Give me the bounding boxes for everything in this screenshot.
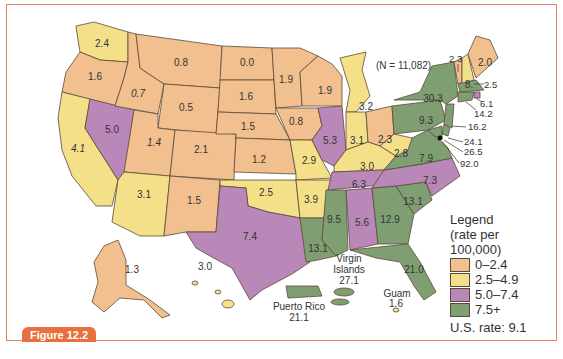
figure-tab: Figure 12.2	[22, 327, 96, 342]
state-AK	[92, 240, 170, 318]
label-IA: 0.8	[289, 116, 303, 127]
label-KS: 1.2	[252, 154, 266, 165]
label-CA: 4.1	[71, 143, 85, 154]
label-MT: 0.8	[174, 57, 188, 68]
label-VI-name2: Islands	[333, 264, 365, 275]
state-NJ	[444, 104, 454, 128]
label-GU: 1.6	[389, 298, 403, 309]
label-CO: 2.1	[194, 144, 208, 155]
label-HI: 3.0	[198, 261, 212, 272]
state-CO	[170, 130, 236, 180]
label-SD: 1.6	[239, 91, 253, 102]
n-count-label: (N = 11,082)	[376, 60, 431, 71]
label-GA: 12.9	[380, 214, 400, 225]
legend-label: 5.0–7.4	[475, 287, 518, 302]
label-FL: 21.0	[404, 264, 424, 275]
label-IN: 3.1	[350, 135, 364, 146]
state-AZ	[112, 172, 170, 236]
label-ID: 0.7	[131, 88, 145, 99]
label-NH: 2.5	[484, 79, 497, 90]
label-MO: 2.9	[302, 155, 316, 166]
legend-item: 5.0–7.4	[450, 287, 527, 302]
label-NV: 5.0	[105, 124, 119, 135]
label-AK: 1.3	[125, 264, 139, 275]
label-AR: 3.9	[304, 194, 318, 205]
label-VI: 27.1	[339, 275, 359, 286]
label-DC: 92.0	[460, 158, 479, 169]
label-AL: 5.6	[355, 217, 369, 228]
label-WI: 1.9	[318, 85, 332, 96]
label-IL: 5.3	[323, 135, 337, 146]
label-MD: 26.5	[464, 146, 483, 157]
hi-island	[215, 290, 221, 294]
label-MI: 3.2	[359, 101, 373, 112]
label-OR: 1.6	[88, 71, 102, 82]
state-NM	[164, 176, 220, 236]
label-VI-name1: Virgin	[336, 253, 361, 264]
label-SC: 13.1	[403, 196, 423, 207]
leader-DE	[448, 138, 463, 142]
legend: Legend (rate per 100,000) 0–2.4 2.5–4.9 …	[450, 212, 527, 335]
label-MN: 1.9	[279, 74, 293, 85]
label-LA: 13.1	[308, 243, 328, 254]
legend-subtitle-1: (rate per	[450, 227, 527, 242]
legend-swatch	[450, 273, 470, 287]
label-NE: 1.5	[241, 121, 255, 132]
label-CT: 14.2	[474, 108, 493, 119]
label-PA: 9.3	[419, 115, 433, 126]
label-UT: 1.4	[147, 137, 161, 148]
label-NM: 1.5	[187, 195, 201, 206]
label-MS: 9.5	[327, 214, 341, 225]
label-VA: 7.9	[419, 153, 433, 164]
legend-label: 7.5+	[475, 302, 501, 317]
label-ND: 0.0	[240, 57, 254, 68]
legend-item: 7.5+	[450, 302, 527, 317]
label-PR: 21.1	[289, 312, 309, 323]
territory-VI	[334, 288, 354, 296]
dc-marker	[438, 136, 443, 141]
leader-CT	[466, 102, 476, 110]
label-KY: 3.0	[360, 161, 374, 172]
label-TX: 7.4	[243, 231, 257, 242]
hi-island	[192, 281, 198, 285]
label-WV: 2.8	[394, 148, 408, 159]
label-OH: 2.3	[378, 134, 392, 145]
label-OK: 2.5	[259, 187, 273, 198]
state-HI	[222, 300, 234, 308]
legend-subtitle-2: 100,000)	[450, 242, 527, 257]
legend-item: 0–2.4	[450, 257, 527, 272]
legend-swatch	[450, 288, 470, 302]
legend-item: 2.5–4.9	[450, 272, 527, 287]
us-rate: U.S. rate: 9.1	[450, 320, 527, 335]
state-CT	[458, 92, 474, 102]
legend-label: 2.5–4.9	[475, 272, 518, 287]
label-TN: 6.3	[352, 179, 366, 190]
legend-label: 0–2.4	[475, 257, 508, 272]
leader-NJ	[452, 126, 466, 127]
label-WY: 0.5	[179, 102, 193, 113]
label-ME: 2.0	[478, 57, 492, 68]
label-MA: 8.	[465, 79, 473, 90]
legend-swatch	[450, 258, 470, 272]
territory-PR	[286, 286, 322, 298]
vi-island	[331, 299, 349, 305]
label-AZ: 3.1	[137, 189, 151, 200]
label-NJ: 16.2	[468, 121, 487, 132]
label-NC: 7.3	[423, 175, 437, 186]
label-WA: 2.4	[95, 38, 109, 49]
label-NY: 30.3	[423, 93, 443, 104]
legend-title: Legend	[450, 212, 527, 227]
label-VT: 2.3	[449, 53, 462, 64]
legend-swatch	[450, 303, 470, 317]
label-PR-name: Puerto Rico	[273, 301, 326, 312]
